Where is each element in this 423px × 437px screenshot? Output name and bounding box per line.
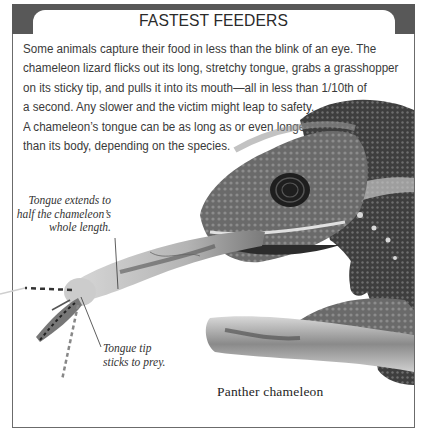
callout-line: Tongue extends to — [14, 194, 111, 208]
callout-line-tongue-tip — [81, 297, 101, 347]
callout-line: whole length. — [14, 221, 111, 235]
illustration-caption: Panther chameleon — [217, 384, 323, 400]
callout-line: Tongue tip — [103, 342, 183, 356]
callout-line: sticks to prey. — [103, 356, 183, 370]
chameleon-tongue — [64, 230, 265, 306]
fastest-feeders-panel: FASTEST FEEDERS Some animals capture the… — [0, 0, 423, 437]
callout-tongue-tip: Tongue tip sticks to prey. — [103, 342, 183, 369]
callout-line: half the chameleon’s — [14, 208, 111, 222]
callout-tongue-length: Tongue extends to half the chameleon’s w… — [14, 194, 111, 235]
